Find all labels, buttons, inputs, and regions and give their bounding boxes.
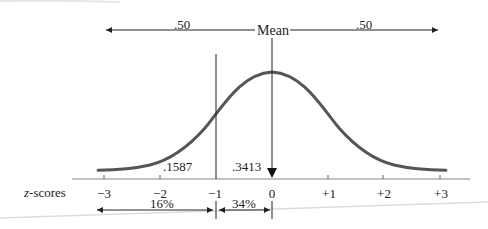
mean-arrowhead xyxy=(267,168,277,178)
page-edge-shadow-top xyxy=(0,1,120,2)
tick-label-plus3: +3 xyxy=(434,186,448,202)
right-half-proportion-label: .50 xyxy=(356,18,372,31)
left-percent-label: 16% xyxy=(150,197,174,210)
normal-distribution-diagram: .50 Mean .50 .1587 .3413 z-scores −3 −2 … xyxy=(0,0,488,229)
scores-text: -scores xyxy=(29,185,66,200)
normal-curve xyxy=(98,72,446,170)
central-area-label: .3413 xyxy=(232,160,261,173)
tick-label-minus1: −1 xyxy=(208,186,222,202)
right-percent-label: 34% xyxy=(232,197,256,210)
tail-area-label: .1587 xyxy=(163,160,192,173)
left-half-proportion-label: .50 xyxy=(174,18,190,31)
tick-label-0: 0 xyxy=(269,186,276,202)
tick-label-plus2: +2 xyxy=(377,186,391,202)
z-axis-ticks xyxy=(104,175,440,179)
z-scores-axis-label: z-scores xyxy=(24,186,66,199)
diagram-graphics xyxy=(0,0,488,229)
tick-label-plus1: +1 xyxy=(322,186,336,202)
tick-label-minus3: −3 xyxy=(97,186,111,202)
mean-label: Mean xyxy=(256,24,290,38)
